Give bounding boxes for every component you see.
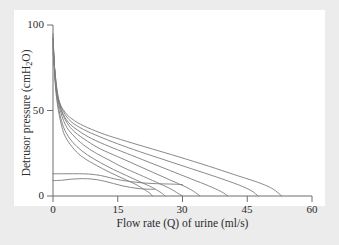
curve-group (53, 34, 282, 196)
x-tick-label-45: 45 (237, 204, 257, 215)
y-axis-title-subscript: 2 (25, 62, 34, 66)
x-tick-label-0: 0 (43, 204, 63, 215)
curve-7 (53, 52, 282, 196)
x-axis-title: Flow rate (Q) of urine (ml/s) (53, 217, 312, 229)
x-tick-label-30: 30 (172, 204, 192, 215)
plateau-low (53, 179, 154, 190)
x-axis-ticks (53, 196, 312, 202)
y-axis-title-post: O) (20, 50, 32, 62)
curve-4 (53, 42, 200, 196)
y-axis-title-pre: Detrusor pressure (cmH (20, 66, 32, 177)
curve-1 (53, 34, 152, 196)
y-axis-title: Detrusor pressure (cmH2O) (20, 23, 34, 203)
x-tick-label-15: 15 (108, 204, 128, 215)
curve-3 (53, 39, 183, 196)
figure-container: 100 50 0 0 15 30 45 60 Flow rate (Q) of … (0, 0, 339, 245)
y-axis-ticks (47, 25, 53, 196)
x-tick-label-60: 60 (302, 204, 322, 215)
